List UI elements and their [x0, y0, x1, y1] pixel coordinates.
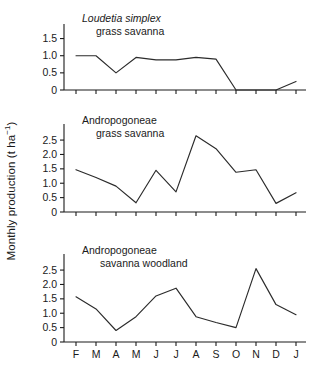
y-tick-label: 0: [51, 84, 57, 96]
y-tick-label: 1.5: [42, 32, 57, 44]
chart-svg-1: 00.51.01.52.02.5: [22, 112, 318, 232]
x-tick-label: O: [232, 348, 240, 360]
x-tick-label: A: [112, 348, 119, 360]
y-tick-label: 1.0: [42, 307, 57, 319]
x-tick-label: N: [252, 348, 260, 360]
panel-title-0-line1: Loudetia simplex: [82, 12, 161, 24]
y-tick-label: 2.5: [42, 134, 57, 146]
panel-title-0: Loudetia simplex grass savanna: [82, 12, 164, 37]
x-tick-label: S: [212, 348, 219, 360]
panel-title-2: Andropogoneae savanna woodland: [82, 244, 188, 269]
panel-andropogoneae-savanna-woodland: Andropogoneae savanna woodland 00.51.01.…: [22, 242, 318, 378]
y-tick-label: 2.0: [42, 148, 57, 160]
data-line-series: [76, 269, 296, 331]
y-tick-label: 0.5: [42, 191, 57, 203]
data-line-series: [76, 136, 296, 204]
y-axis-label-text: Monthly production (t ha−1): [5, 121, 17, 260]
panel-title-2-line1: Andropogoneae: [82, 244, 157, 256]
figure-root: Monthly production (t ha−1) Loudetia sim…: [0, 0, 318, 382]
chart-svg-0: 00.51.01.5: [22, 6, 318, 110]
y-tick-label: 1.5: [42, 162, 57, 174]
y-tick-label: 2.5: [42, 264, 57, 276]
x-tick-label: J: [173, 348, 178, 360]
y-axis-label: Monthly production (t ha−1): [0, 0, 22, 382]
y-tick-label: 0.5: [42, 66, 57, 78]
data-line-series: [76, 56, 296, 90]
y-tick-label: 0.5: [42, 321, 57, 333]
y-tick-label: 2.0: [42, 278, 57, 290]
y-tick-label: 1.0: [42, 177, 57, 189]
x-tick-label: J: [293, 348, 298, 360]
panel-loudetia-simplex-grass-savanna: Loudetia simplex grass savanna 00.51.01.…: [22, 6, 318, 110]
x-tick-label: M: [92, 348, 101, 360]
y-tick-label: 1.5: [42, 292, 57, 304]
x-tick-label: M: [132, 348, 141, 360]
panel-title-0-line2: grass savanna: [82, 25, 164, 38]
y-tick-label: 0: [51, 206, 57, 218]
y-tick-label: 1.0: [42, 49, 57, 61]
panel-title-2-line2: savanna woodland: [82, 257, 188, 270]
y-tick-label: 0: [51, 336, 57, 348]
x-tick-label: A: [192, 348, 199, 360]
panel-andropogoneae-grass-savanna: Andropogoneae grass savanna 00.51.01.52.…: [22, 112, 318, 232]
panel-title-1-line1: Andropogoneae: [82, 114, 157, 126]
panel-title-1-line2: grass savanna: [82, 127, 164, 140]
x-tick-label: J: [153, 348, 158, 360]
y-axis-label-exponent: −1: [3, 125, 12, 134]
panel-title-1: Andropogoneae grass savanna: [82, 114, 164, 139]
x-tick-label: F: [73, 348, 79, 360]
x-tick-label: D: [272, 348, 280, 360]
